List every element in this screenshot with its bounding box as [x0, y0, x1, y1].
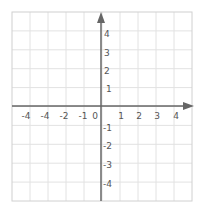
- x-label: -1: [79, 111, 88, 121]
- x-label: -4: [41, 111, 50, 121]
- y-label: -3: [103, 160, 112, 170]
- x-label: -2: [60, 111, 69, 121]
- y-label: 4: [104, 29, 110, 39]
- x-label: 2: [136, 111, 142, 121]
- x-label: 4: [173, 111, 179, 121]
- x-label: 3: [154, 111, 160, 121]
- y-axis-labels: 4 3 2 1 -1 -2 -3 -4: [103, 29, 112, 189]
- y-label: 2: [104, 66, 110, 76]
- coordinate-plane: -4 -4 -2 -1 0 1 2 3 4 4 3 2 1 -1 -2 -3 -…: [0, 0, 207, 216]
- origin-label: 0: [92, 111, 98, 121]
- x-axis: [12, 102, 194, 110]
- y-label: 1: [106, 84, 112, 94]
- x-label: -4: [22, 111, 31, 121]
- y-label: 3: [104, 48, 110, 58]
- x-label: 1: [118, 111, 124, 121]
- y-label: -1: [103, 123, 112, 133]
- y-label: -4: [103, 179, 112, 189]
- y-label: -2: [103, 141, 112, 151]
- y-axis-arrow-icon: [97, 12, 105, 23]
